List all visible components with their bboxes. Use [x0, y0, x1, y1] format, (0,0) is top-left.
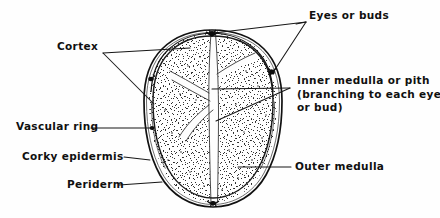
- label-inner-medulla-line-1: Inner medulla or pith: [297, 74, 440, 88]
- label-inner-medulla-line-3: or bud): [297, 101, 440, 115]
- label-corky-epidermis: Corky epidermis: [22, 150, 124, 164]
- label-vascular-ring: Vascular ring: [16, 120, 98, 134]
- leader-periderm: [119, 182, 162, 185]
- label-periderm: Periderm: [67, 178, 124, 192]
- label-inner-medulla-or-pith: Inner medulla or pith (branching to each…: [297, 74, 440, 115]
- label-inner-medulla-line-2: (branching to each eye: [297, 88, 440, 102]
- label-cortex: Cortex: [57, 40, 98, 54]
- label-outer-medulla: Outer medulla: [295, 160, 384, 174]
- leader-corky-epidermis: [124, 157, 150, 160]
- potato-tuber-diagram: Eyes or buds Cortex Inner medulla or pit…: [0, 0, 440, 218]
- label-eyes-or-buds: Eyes or buds: [309, 9, 389, 23]
